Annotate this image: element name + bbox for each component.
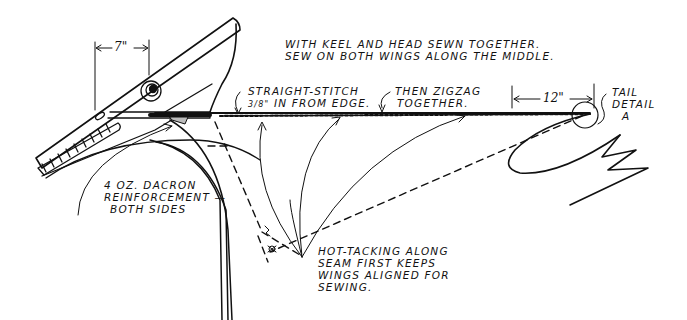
zigzag-note: THEN ZIGZAG TOGETHER. (395, 85, 481, 109)
straight-stitch-line2: 3/8" IN FROM EDGE. (248, 97, 371, 111)
straight-stitch-line1: STRAIGHT-STITCH (248, 85, 371, 97)
center-seam (150, 113, 590, 124)
straight-stitch-rest: IN FROM EDGE. (274, 97, 371, 109)
straight-stitch-note: STRAIGHT-STITCH 3/8" IN FROM EDGE. (248, 85, 371, 111)
top-note-line2: SEW ON BOTH WINGS ALONG THE MIDDLE. (285, 50, 555, 62)
keel-outline (150, 120, 232, 320)
hot-tacking-note: HOT-TACKING ALONG SEAM FIRST KEEPS WINGS… (318, 245, 450, 293)
zigzag-line2: TOGETHER. (395, 97, 481, 109)
dacron-note: 4 OZ. DACRON REINFORCEMENT — BOTH SIDES (104, 179, 226, 215)
tail-detail-note: TAIL DETAIL A (612, 86, 656, 122)
fraction: 3/8" (248, 100, 269, 109)
hot-tacking-line1: HOT-TACKING ALONG (318, 245, 450, 257)
dimension-label-12in: 12" (543, 91, 564, 105)
hot-tacking-line3: WINGS ALIGNED FOR (318, 269, 450, 281)
hot-tacking-line4: SEWING. (318, 281, 450, 293)
top-instruction-note: WITH KEEL AND HEAD SEWN TOGETHER. SEW ON… (285, 38, 555, 62)
top-note-line1: WITH KEEL AND HEAD SEWN TOGETHER. (285, 38, 555, 50)
tail-detail-line1: TAIL (612, 86, 656, 98)
hot-tacking-line2: SEAM FIRST KEEPS (318, 257, 450, 269)
zigzag-line1: THEN ZIGZAG (395, 85, 481, 97)
dimension-label-7in: 7" (114, 40, 127, 54)
kite-head (36, 18, 260, 178)
kite-tail (509, 114, 648, 205)
tail-detail-line3: A (612, 110, 656, 122)
wing-fold-lines (208, 116, 582, 262)
dacron-line3: BOTH SIDES (104, 203, 226, 215)
dacron-line2: REINFORCEMENT — (104, 191, 226, 203)
dacron-line1: 4 OZ. DACRON (104, 179, 226, 191)
tail-detail-line2: DETAIL (612, 98, 656, 110)
